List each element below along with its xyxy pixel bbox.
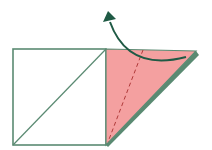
colored-flap (106, 49, 196, 145)
arrow-head-icon (103, 11, 116, 22)
origami-diagram (0, 0, 212, 150)
